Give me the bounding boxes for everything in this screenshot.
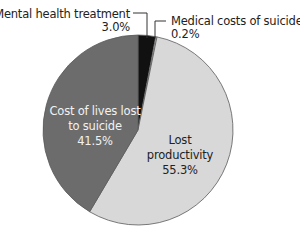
slice-value-mental-health-treatment: 3.0% bbox=[102, 20, 131, 34]
slice-value-cost-of-lives-lost-to-suicide: 41.5% bbox=[77, 134, 113, 148]
pie-chart: Mental health treatment3.0%Medical costs… bbox=[0, 0, 300, 233]
slice-label-lost-productivity: productivity bbox=[147, 148, 214, 162]
slice-label-cost-of-lives-lost-to-suicide: Cost of lives lost bbox=[49, 104, 141, 118]
slice-label-cost-of-lives-lost-to-suicide: to suicide bbox=[68, 119, 122, 133]
slice-label-mental-health-treatment: Mental health treatment bbox=[0, 7, 131, 21]
slice-value-medical-costs-of-suicide: 0.2% bbox=[171, 27, 200, 41]
slice-label-lost-productivity: Lost bbox=[169, 133, 193, 147]
slice-label-medical-costs-of-suicide: Medical costs of suicide bbox=[171, 14, 300, 28]
leader-line-medical-costs-of-suicide bbox=[155, 21, 166, 38]
leader-lines bbox=[133, 13, 166, 38]
slice-value-lost-productivity: 55.3% bbox=[162, 163, 198, 177]
leader-line-mental-health-treatment bbox=[133, 13, 147, 38]
